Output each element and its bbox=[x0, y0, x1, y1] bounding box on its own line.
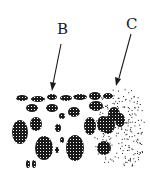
arrow-b bbox=[50, 44, 61, 91]
diagram-illustration bbox=[0, 0, 150, 178]
diagram-canvas: B C bbox=[0, 0, 150, 178]
arrow-c bbox=[115, 34, 131, 86]
